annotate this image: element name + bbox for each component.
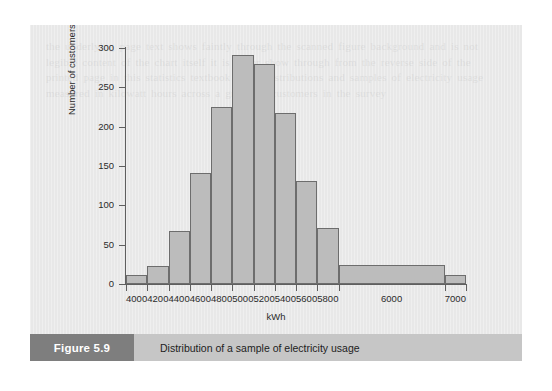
x-axis-tick-label: 4200 (147, 293, 168, 304)
histogram-bar (190, 173, 211, 284)
histogram-bar (211, 107, 232, 284)
y-axis-tick-label: 0 (109, 278, 114, 289)
y-axis-tick: 200 (119, 127, 125, 128)
x-axis-tick-label: 6000 (381, 293, 402, 304)
x-axis-tick (254, 285, 255, 291)
histogram-chart: 050100150200250300 400042004400460048005… (30, 25, 522, 325)
y-axis-title: Number of customers (66, 25, 77, 115)
x-axis-tick (147, 285, 148, 291)
x-axis-tick-label: 5600 (296, 293, 317, 304)
x-axis-tick-label: 5000 (232, 293, 253, 304)
histogram-bar (275, 113, 296, 284)
y-axis-tick-label: 250 (98, 81, 114, 92)
figure-caption-text: Distribution of a sample of electricity … (134, 334, 522, 361)
x-axis-tick (339, 285, 340, 291)
histogram-bar (296, 181, 317, 284)
y-axis-tick: 0 (119, 284, 125, 285)
y-axis-tick: 150 (119, 166, 125, 167)
x-axis-tick (317, 285, 318, 291)
x-axis-tick-label: 5200 (254, 293, 275, 304)
y-axis-tick-label: 100 (98, 199, 114, 210)
x-axis-tick (445, 285, 446, 291)
y-axis-tick: 50 (119, 245, 125, 246)
x-axis-tick-label: 5400 (275, 293, 296, 304)
x-axis-tick (296, 285, 297, 291)
x-axis-tick (190, 285, 191, 291)
histogram-bar (147, 266, 168, 284)
x-axis-tick-label: 7000 (445, 293, 466, 304)
histogram-bar (317, 228, 338, 284)
histogram-bar (169, 231, 190, 284)
y-axis-tick: 300 (119, 48, 125, 49)
x-axis-tick (232, 285, 233, 291)
y-axis-tick: 100 (119, 205, 125, 206)
y-axis-tick-label: 300 (98, 42, 114, 53)
x-axis-tick-label: 4400 (169, 293, 190, 304)
x-axis-tick-label: 4600 (190, 293, 211, 304)
y-axis-tick-label: 200 (98, 121, 114, 132)
histogram-bar (126, 275, 147, 284)
figure-caption-bar: Figure 5.9 Distribution of a sample of e… (30, 334, 522, 361)
x-axis-tick-label: 4000 (126, 293, 147, 304)
figure-number: Figure 5.9 (30, 334, 134, 361)
y-axis-tick-label: 150 (98, 160, 114, 171)
histogram-bar (254, 64, 275, 284)
figure-panel: the underlying page text shows faintly t… (30, 25, 522, 361)
x-axis-tick (466, 285, 467, 291)
plot-area (126, 48, 466, 284)
histogram-bar (339, 265, 445, 284)
histogram-bar (445, 275, 466, 284)
x-axis-tick-label: 4800 (211, 293, 232, 304)
x-axis-tick (126, 285, 127, 291)
y-axis-tick-label: 50 (103, 239, 114, 250)
x-axis-tick (211, 285, 212, 291)
x-axis-title: kWh (30, 311, 522, 322)
x-axis-tick (169, 285, 170, 291)
x-axis-tick-label: 5800 (317, 293, 338, 304)
histogram-bar (232, 55, 253, 284)
y-axis-tick: 250 (119, 87, 125, 88)
x-axis-tick (275, 285, 276, 291)
